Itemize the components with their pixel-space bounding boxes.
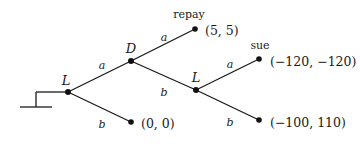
- action-label-l2-b: b: [226, 117, 233, 128]
- decision-node-second-l: [193, 87, 199, 93]
- terminal-node-l2-b: [256, 117, 262, 123]
- terminal-node-root-b: [128, 119, 134, 125]
- player-label-root-l: L: [62, 74, 71, 87]
- payoff-sue: (−120, −120): [270, 56, 356, 69]
- payoff-root-b: (0, 0): [141, 118, 175, 131]
- decision-node-d: [128, 58, 134, 64]
- player-label-second-l: L: [192, 71, 201, 84]
- outcome-name-sue: sue: [250, 40, 269, 51]
- outcome-name-repay: repay: [173, 9, 205, 20]
- action-label-l2-a: a: [227, 59, 234, 70]
- terminal-node-sue: [256, 56, 262, 62]
- action-label-d-b: b: [160, 87, 167, 98]
- payoff-l2-b: (−100, 110): [270, 117, 346, 130]
- decision-node-root-l: [65, 89, 71, 95]
- action-label-root-b: b: [98, 119, 105, 130]
- action-label-d-a: a: [161, 32, 168, 43]
- action-label-root-a: a: [99, 60, 106, 71]
- terminal-node-repay: [192, 26, 198, 32]
- root-marker: [20, 92, 68, 107]
- player-label-d: D: [126, 42, 136, 55]
- payoff-repay: (5, 5): [205, 25, 239, 38]
